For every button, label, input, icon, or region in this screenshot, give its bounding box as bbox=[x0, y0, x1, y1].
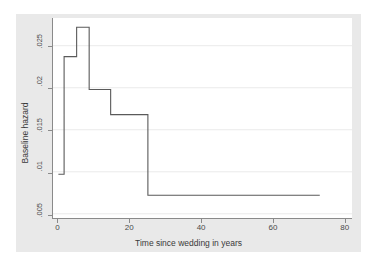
x-tick-label: 0 bbox=[45, 224, 69, 232]
y-tick-label: .005 bbox=[36, 203, 44, 218]
y-tick-mark bbox=[48, 46, 52, 47]
chart-svg bbox=[53, 18, 352, 218]
y-tick-mark bbox=[48, 88, 52, 89]
figure-canvas: Baseline hazard .005.01.015.02.025 02040… bbox=[16, 14, 361, 252]
x-tick-label: 60 bbox=[261, 224, 285, 232]
y-tick-label: .02 bbox=[36, 76, 44, 86]
y-tick-mark bbox=[48, 130, 52, 131]
x-axis-title: Time since wedding in years bbox=[16, 238, 361, 248]
y-axis-title: Baseline hazard bbox=[20, 103, 30, 164]
x-tick-label: 80 bbox=[333, 224, 357, 232]
baseline-hazard-step-line bbox=[58, 27, 319, 195]
y-tick-label: .015 bbox=[36, 118, 44, 133]
x-tick-label: 40 bbox=[189, 224, 213, 232]
y-tick-label: .025 bbox=[36, 34, 44, 49]
gridlines bbox=[53, 46, 352, 214]
y-tick-mark bbox=[48, 173, 52, 174]
y-tick-mark bbox=[48, 215, 52, 216]
y-tick-label: .01 bbox=[36, 161, 44, 171]
x-tick-label: 20 bbox=[117, 224, 141, 232]
plot-area bbox=[52, 18, 352, 219]
